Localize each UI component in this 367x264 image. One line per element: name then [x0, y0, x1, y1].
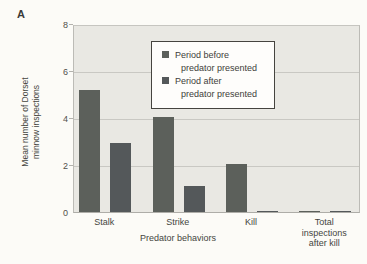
bar-after-stalk	[110, 143, 131, 212]
legend-swatch-icon	[162, 77, 169, 84]
legend-item-0: Period beforepredator presented	[162, 49, 274, 74]
bar-before-strike	[153, 117, 174, 212]
gridline-y4	[74, 119, 359, 120]
x-category-label-stalk: Stalk	[69, 217, 139, 228]
panel-label: A	[17, 8, 25, 20]
legend-box: Period beforepredator presentedPeriod af…	[151, 41, 275, 109]
y-axis-title-line2: minnow inspections	[31, 47, 42, 197]
y-tick-label-2: 2	[50, 162, 68, 171]
x-category-label-strike: Strike	[143, 217, 213, 228]
y-tick-label-0: 0	[50, 209, 68, 218]
bar-before-kill	[226, 164, 247, 212]
legend-label-line1: Period before	[175, 49, 257, 62]
x-category-label-total: Total inspections after kill	[292, 217, 356, 249]
legend-label-line2: predator presented	[175, 88, 257, 101]
bar-before-total	[299, 211, 320, 212]
bar-after-kill	[257, 211, 278, 212]
figure-panel: A Mean number of Dorset minnow inspectio…	[0, 0, 367, 264]
legend-swatch-icon	[162, 51, 169, 58]
y-tick-label-8: 8	[50, 21, 68, 30]
bar-after-total	[330, 211, 351, 212]
y-axis-title-line1: Mean number of Dorset	[20, 47, 31, 197]
legend-label-line2: predator presented	[175, 62, 257, 75]
y-tick-mark-8	[69, 24, 73, 25]
bar-after-strike	[184, 186, 205, 212]
x-category-label-kill: Kill	[216, 217, 286, 228]
x-axis-title: Predator behaviors	[113, 233, 243, 243]
legend-label-line1: Period after	[175, 75, 257, 88]
y-tick-label-6: 6	[50, 68, 68, 77]
bar-before-stalk	[79, 90, 100, 212]
y-tick-mark-2	[69, 165, 73, 166]
y-tick-mark-4	[69, 118, 73, 119]
legend-item-1: Period afterpredator presented	[162, 75, 274, 100]
y-tick-label-4: 4	[50, 115, 68, 124]
y-tick-mark-6	[69, 71, 73, 72]
y-axis-title: Mean number of Dorset minnow inspections	[20, 47, 42, 197]
